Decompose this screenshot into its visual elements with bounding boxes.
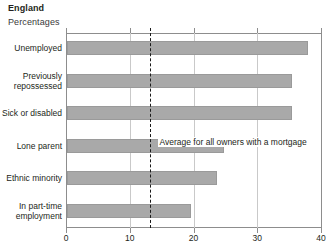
x-tick-label: 10	[125, 233, 134, 243]
category-label: In part-time employment	[0, 201, 62, 221]
category-label: Lone parent	[0, 141, 62, 151]
bar	[67, 106, 292, 120]
x-tick-label: 0	[64, 233, 69, 243]
plot-area: 010203040 Average for all owners with a …	[66, 33, 322, 228]
bar	[67, 74, 292, 88]
bar	[67, 204, 191, 218]
bar	[67, 41, 308, 55]
x-tick-label: 20	[189, 233, 198, 243]
average-reference-label: Average for all owners with a mortgage	[158, 137, 309, 147]
average-reference-line	[150, 28, 151, 228]
bar-chart: England Percentages 010203040 Average fo…	[0, 0, 333, 252]
page-subtitle: Percentages	[8, 17, 60, 27]
tick-mark	[257, 28, 258, 33]
bar	[67, 171, 217, 185]
x-tick-label: 40	[316, 233, 325, 243]
tick-mark	[321, 28, 322, 33]
tick-mark	[130, 28, 131, 33]
category-label: Ethnic minority	[0, 173, 62, 183]
axis-line-right	[321, 33, 322, 228]
axis-line-left	[66, 33, 67, 228]
gridline	[130, 33, 131, 228]
x-tick-label: 30	[253, 233, 262, 243]
tick-mark	[66, 28, 67, 33]
tick-mark	[194, 28, 195, 33]
category-label: Previously repossessed	[0, 71, 62, 91]
category-label: Sick or disabled	[0, 108, 62, 118]
page-title: England	[8, 3, 44, 13]
category-label: Unemployed	[0, 43, 62, 53]
gridline	[257, 33, 258, 228]
gridline	[194, 33, 195, 228]
